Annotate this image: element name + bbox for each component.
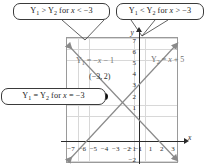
leader-line-less-3: [142, 20, 155, 36]
y-tick-6: 6: [125, 48, 136, 56]
callout-y1-greater-y2[interactable]: Y1 > Y2 for x < −3: [13, 3, 110, 20]
x-axis-label: x: [188, 133, 191, 142]
callout-greater-text: Y1 > Y2 for x < −3: [30, 7, 93, 16]
callout-less-text: Y1 < Y2 for x > −3: [129, 7, 192, 16]
y-tick-3: 3: [125, 81, 136, 89]
y-axis-arrow-icon: [136, 27, 142, 32]
x-tick-3: 3: [167, 145, 179, 153]
y-tick-2: 2: [125, 93, 136, 101]
y-tick-7: 7: [125, 37, 136, 45]
callout-equal-text: Y1 = Y2 for x = −3: [22, 92, 85, 101]
leader-line-less-2: [142, 20, 168, 36]
callout-y1-equals-y2[interactable]: Y1 = Y2 for x = −3: [1, 88, 106, 105]
callout-y1-less-y2[interactable]: Y1 < Y2 for x > −3: [116, 3, 204, 20]
y-tick--1: −1: [124, 145, 136, 153]
x-tick-1: 1: [145, 145, 157, 153]
eq-y2-rest: + 5: [172, 55, 185, 64]
equation-label-y1: Y1 = −x − 1: [76, 56, 114, 66]
figure-root: y x −7 −6 −5 −4 −3 −2 −1 1 2 3 7 6 5 4 3…: [0, 0, 206, 166]
eq-y1-rest: − 1: [101, 56, 114, 65]
y-tick-4: 4: [125, 70, 136, 78]
eq-y1-eq: = −: [85, 56, 98, 65]
y-tick-5: 5: [125, 59, 136, 67]
y-tick-1: 1: [125, 104, 136, 112]
y-axis-line: [139, 30, 140, 164]
intersection-point-label: (−3, 2): [89, 72, 110, 81]
x-tick-2: 2: [156, 145, 168, 153]
x-axis-line: [61, 141, 185, 142]
equation-label-y2: Y2 = x + 5: [151, 55, 184, 65]
y-tick--2: −2: [124, 156, 136, 164]
